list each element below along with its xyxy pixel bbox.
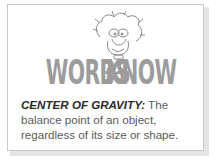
title-word-know: KNOW	[106, 55, 176, 91]
definition-text: CENTER OF GRAVITY: The balance point of …	[21, 97, 203, 142]
term-label: CENTER OF GRAVITY:	[21, 98, 145, 111]
words-to-know-card: WORDS to KNOW CENTER OF GRAVITY: The bal…	[7, 4, 204, 151]
words-to-know-title: WORDS to KNOW	[8, 49, 205, 91]
